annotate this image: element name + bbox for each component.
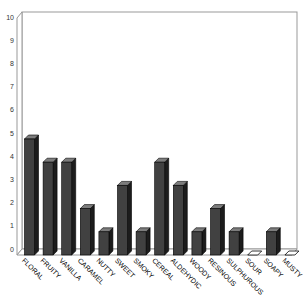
y-axis-tick-label: 4 bbox=[10, 153, 14, 160]
y-axis-tick-label: 2 bbox=[10, 199, 14, 206]
plot-left-wall bbox=[17, 12, 22, 255]
bar-side-face bbox=[90, 205, 94, 255]
bar-front-face bbox=[62, 162, 72, 255]
bar-front-face bbox=[99, 232, 109, 255]
bar-side-face bbox=[72, 158, 76, 255]
bar-side-face bbox=[35, 135, 39, 255]
bar-side-face bbox=[109, 228, 113, 255]
y-axis-tick-label: 3 bbox=[10, 176, 14, 183]
bar-side-face bbox=[128, 181, 132, 255]
bar-front-face bbox=[266, 232, 276, 255]
y-axis-tick-label: 7 bbox=[10, 83, 14, 90]
bar-front-face bbox=[80, 209, 90, 255]
bar-side-face bbox=[221, 205, 225, 255]
bar-front-face bbox=[173, 185, 183, 255]
y-axis-tick-label: 1 bbox=[10, 222, 14, 229]
bar-front-face bbox=[136, 232, 146, 255]
bar-side-face bbox=[146, 228, 150, 255]
bar-side-face bbox=[165, 158, 169, 255]
y-axis-tick-label: 10 bbox=[6, 14, 14, 21]
bar-front-face bbox=[43, 162, 53, 255]
y-axis-tick-label: 8 bbox=[10, 60, 14, 67]
y-axis-tick-label: 6 bbox=[10, 106, 14, 113]
bar-front-face bbox=[155, 162, 165, 255]
y-axis-tick-label: 5 bbox=[10, 130, 14, 137]
y-axis-tick-label: 9 bbox=[10, 37, 14, 44]
bar-side-face bbox=[53, 158, 57, 255]
category-label: MUSTY bbox=[281, 257, 304, 280]
y-axis-tick-label: 0 bbox=[10, 246, 14, 253]
bar-side-face bbox=[202, 228, 206, 255]
bar-side-face bbox=[239, 228, 243, 255]
bar-side-face bbox=[276, 228, 280, 255]
bar-front-face bbox=[118, 185, 128, 255]
bar-front-face bbox=[211, 209, 221, 255]
bar-front-face bbox=[192, 232, 202, 255]
aroma-descriptor-3d-bar-chart: 012345678910FLORALFRUITYVANILLACARAMELNU… bbox=[0, 0, 305, 308]
chart-canvas: 012345678910FLORALFRUITYVANILLACARAMELNU… bbox=[0, 0, 305, 308]
bar-front-face bbox=[25, 139, 35, 255]
bar-front-face bbox=[229, 232, 239, 255]
bar-side-face bbox=[183, 181, 187, 255]
